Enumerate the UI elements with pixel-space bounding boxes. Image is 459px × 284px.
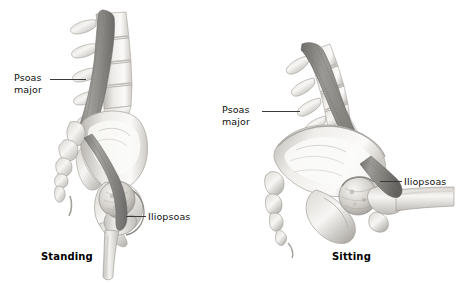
label-psoas-major-sitting: Psoas major [222, 104, 250, 127]
label-psoas-major-standing-line2: major [14, 84, 42, 96]
sitting-anatomy-illustration [230, 0, 459, 284]
panel-sitting [230, 0, 459, 284]
label-psoas-major-sitting-line2: major [222, 116, 250, 128]
label-iliopsoas-sitting: Iliopsoas [404, 176, 446, 188]
label-psoas-major-standing: Psoas major [14, 72, 42, 95]
standing-anatomy-illustration [0, 0, 229, 284]
label-psoas-major-sitting-line1: Psoas [222, 104, 250, 116]
caption-sitting: Sitting [332, 251, 371, 262]
label-psoas-major-standing-line1: Psoas [14, 72, 42, 84]
anatomy-figure: Psoas major Iliopsoas Standing Psoas maj… [0, 0, 459, 284]
leader-line-iliopsoas-sitting [380, 181, 402, 182]
label-iliopsoas-standing: Iliopsoas [148, 211, 190, 223]
leader-line-iliopsoas-standing [126, 216, 146, 217]
leader-line-psoas-major-standing [50, 79, 86, 80]
caption-standing: Standing [41, 251, 93, 262]
leader-line-psoas-major-sitting [262, 111, 300, 112]
panel-standing [0, 0, 229, 284]
